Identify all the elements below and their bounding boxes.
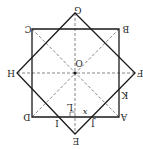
label-f: F bbox=[137, 68, 143, 78]
label-a: A bbox=[120, 112, 128, 122]
geometry-diagram: G C B H F O K D A L x I J E bbox=[0, 0, 143, 149]
label-i: I bbox=[55, 118, 59, 128]
label-l: L bbox=[67, 102, 73, 112]
label-d: D bbox=[23, 112, 30, 122]
label-g: G bbox=[74, 5, 81, 15]
label-b: B bbox=[122, 24, 129, 34]
label-j: J bbox=[91, 118, 96, 128]
label-k: K bbox=[121, 90, 128, 100]
label-x: x bbox=[82, 108, 87, 117]
label-c: C bbox=[24, 24, 31, 34]
label-e: E bbox=[73, 136, 80, 146]
label-h: H bbox=[7, 68, 15, 78]
label-o: O bbox=[75, 58, 82, 68]
center-point-o bbox=[73, 71, 76, 74]
